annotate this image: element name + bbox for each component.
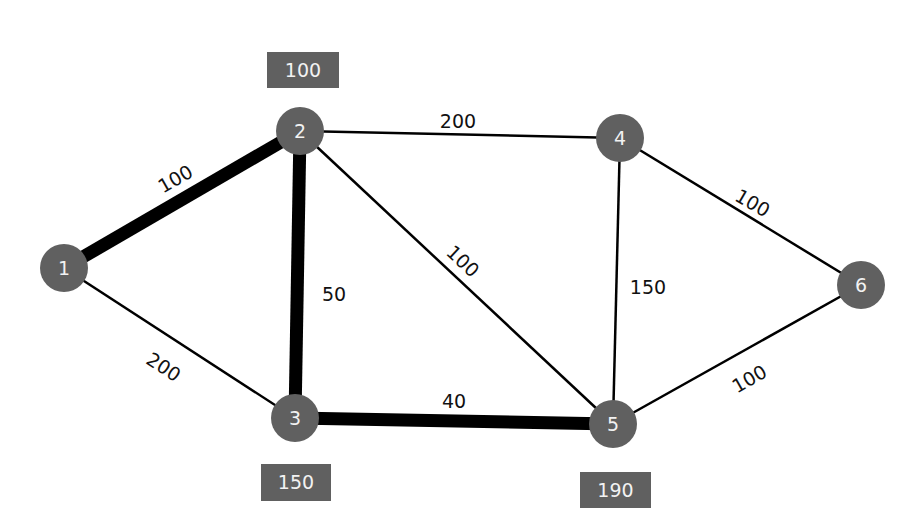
edge-weight-label: 100: [728, 360, 770, 397]
edge-5-6: [613, 285, 861, 424]
graph-diagram: 1002005020010040150100100 123456 1001501…: [0, 0, 921, 520]
edges-layer: 1002005020010040150100100: [64, 110, 861, 425]
edge-2-3: [295, 131, 300, 418]
edge-4-6: [620, 138, 861, 285]
node-label: 6: [855, 274, 867, 296]
node-2: 2: [276, 107, 324, 155]
edge-weight-label: 200: [143, 348, 185, 386]
distance-box: 190: [580, 472, 651, 508]
edge-4-5: [613, 138, 620, 424]
node-3: 3: [271, 394, 319, 442]
edge-weight-label: 100: [732, 184, 774, 221]
node-6: 6: [837, 261, 885, 309]
edge-1-2: [64, 131, 300, 268]
edge-2-4: [300, 131, 620, 138]
node-5: 5: [589, 400, 637, 448]
distance-box: 150: [261, 464, 331, 501]
node-label: 5: [607, 413, 619, 435]
edge-weight-label: 200: [440, 110, 476, 132]
edge-3-5: [295, 418, 613, 424]
edge-1-3: [64, 268, 295, 418]
node-label: 2: [294, 120, 306, 142]
node-1: 1: [40, 244, 88, 292]
distance-box-label: 100: [285, 59, 321, 81]
distance-box-label: 150: [278, 471, 314, 493]
distance-box-label: 190: [597, 479, 633, 501]
node-label: 1: [58, 257, 70, 279]
edge-weight-label: 40: [442, 390, 466, 412]
edge-weight-label: 50: [322, 283, 346, 305]
node-4: 4: [596, 114, 644, 162]
node-label: 3: [289, 407, 301, 429]
edge-weight-label: 100: [442, 240, 484, 281]
edge-weight-label: 150: [630, 276, 666, 298]
distance-box: 100: [267, 52, 339, 88]
edge-2-5: [300, 131, 613, 424]
node-label: 4: [614, 127, 626, 149]
